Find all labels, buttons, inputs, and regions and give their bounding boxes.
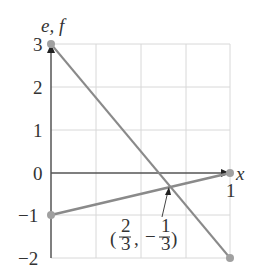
svg-text:(: ( <box>110 228 116 250</box>
svg-text:3: 3 <box>161 233 171 254</box>
point-f-start <box>47 211 55 219</box>
x-tick-1: 1 <box>226 180 236 201</box>
point-e-start <box>47 40 55 48</box>
svg-text:3: 3 <box>121 233 131 254</box>
y-tick-3: 3 <box>33 34 43 55</box>
point-e-end <box>226 254 234 262</box>
annotation-label: ( 2 3 , − 1 3 ) <box>110 215 177 254</box>
svg-text:,: , <box>134 228 139 249</box>
svg-text:): ) <box>171 228 177 250</box>
y-axis-label: e, f <box>41 15 67 36</box>
chart: e, f x 3 2 1 0 −1 −2 1 ( 2 3 , − 1 3 ) <box>0 0 258 277</box>
point-f-end <box>226 169 234 177</box>
svg-text:−: − <box>145 226 156 247</box>
x-axis-label: x <box>235 163 245 184</box>
y-tick-2: 2 <box>33 77 43 98</box>
y-tick-m2: −2 <box>18 248 38 269</box>
y-tick-1: 1 <box>33 120 43 141</box>
y-tick-0: 0 <box>33 163 43 184</box>
y-tick-m1: −1 <box>18 205 38 226</box>
